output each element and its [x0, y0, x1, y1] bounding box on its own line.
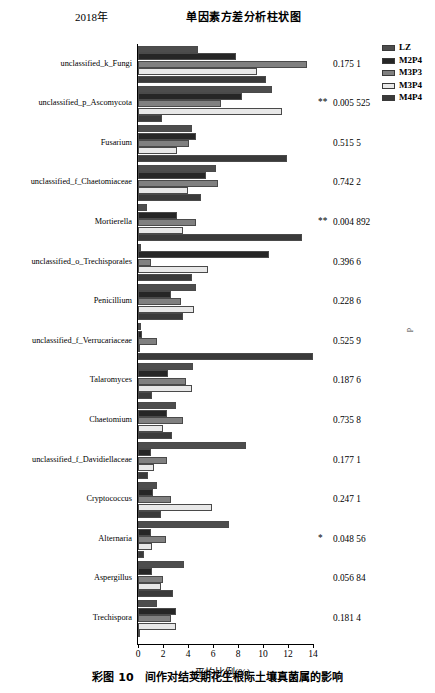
- bar-m2p4: [138, 291, 171, 298]
- bar-m4p4: [138, 590, 173, 597]
- significance-star: **: [318, 216, 327, 226]
- bar-group: unclassified_o_Trechisporales0.396 6: [0, 244, 435, 281]
- bar-group: unclassified_k_Fungi0.175 1: [0, 46, 435, 83]
- bar-m3p4: [138, 623, 176, 630]
- bar-m4p4: [138, 194, 201, 201]
- bar-lz: [138, 482, 157, 489]
- x-tick-label: 10: [253, 649, 273, 659]
- x-tick: [313, 644, 314, 648]
- p-value: 0.175 1: [333, 59, 361, 69]
- bar-m4p4: [138, 76, 266, 83]
- x-tick: [238, 644, 239, 648]
- category-label: Trechispora: [93, 613, 132, 622]
- bar-m3p3: [138, 140, 189, 147]
- x-tick: [188, 644, 189, 648]
- bar-group: Aspergillus0.056 84: [0, 561, 435, 598]
- bar-m3p4: [138, 504, 212, 511]
- bar-m2p4: [138, 529, 151, 536]
- bar-lz: [138, 244, 141, 251]
- category-label: Alternaria: [98, 534, 132, 543]
- legend: LZM2P4M3P3M3P4M4P4: [382, 42, 435, 105]
- bar-m4p4: [138, 551, 144, 558]
- bar-m3p4: [138, 68, 257, 75]
- legend-swatch-icon: [382, 58, 395, 64]
- x-tick: [163, 644, 164, 648]
- bar-lz: [138, 561, 184, 568]
- figure-page: 2018年 单因素方差分析柱状图 unclassified_k_Fungi0.1…: [0, 0, 435, 693]
- significance-star: **: [318, 97, 327, 107]
- p-value: 0.515 5: [333, 138, 361, 148]
- p-value: 0.005 525: [333, 98, 370, 108]
- legend-swatch-icon: [382, 95, 395, 101]
- bar-m3p3: [138, 259, 151, 266]
- bar-m3p3: [138, 378, 186, 385]
- bar-m3p4: [138, 147, 177, 154]
- p-value: 0.004 892: [333, 217, 370, 227]
- category-label: Chaetomium: [89, 415, 132, 424]
- bar-m4p4: [138, 155, 287, 162]
- bar-lz: [138, 323, 141, 330]
- category-label: Talaromyces: [90, 375, 132, 384]
- bar-lz: [138, 125, 192, 132]
- category-label: unclassified_f_Davidiellaceae: [32, 455, 132, 464]
- legend-swatch-icon: [382, 70, 395, 76]
- year-label: 2018年: [75, 8, 108, 24]
- bar-m3p3: [138, 219, 196, 226]
- legend-item-m3p3: M3P3: [382, 67, 435, 80]
- bar-m3p3: [138, 576, 163, 583]
- bar-group: Fusarium0.515 5: [0, 125, 435, 162]
- bar-lz: [138, 204, 147, 211]
- bar-lz: [138, 521, 229, 528]
- x-tick: [213, 644, 214, 648]
- bar-m3p3: [138, 615, 171, 622]
- bar-m3p3: [138, 536, 166, 543]
- x-tick: [263, 644, 264, 648]
- bar-m2p4: [138, 331, 142, 338]
- bar-m2p4: [138, 251, 269, 258]
- x-tick-label: 4: [178, 649, 198, 659]
- significance-star: *: [318, 533, 323, 543]
- category-label: unclassified_f_Verrucariaceae: [32, 336, 132, 345]
- legend-label: M3P4: [399, 80, 422, 90]
- bar-m2p4: [138, 133, 196, 140]
- bar-group: Penicillium0.228 6: [0, 284, 435, 321]
- category-label: unclassified_p_Ascomycota: [38, 98, 132, 107]
- bar-m2p4: [138, 53, 236, 60]
- chart-title: 单因素方差分析柱状图: [186, 8, 301, 24]
- bar-group: Alternaria0.048 56*: [0, 521, 435, 558]
- bar-group: unclassified_f_Davidiellaceae0.177 1: [0, 442, 435, 479]
- bar-m2p4: [138, 370, 168, 377]
- bar-m3p4: [138, 464, 154, 471]
- x-tick-label: 6: [203, 649, 223, 659]
- bar-m4p4: [138, 313, 183, 320]
- figure-caption: 彩图 10 间作对结荚期花生根际土壤真菌属的影响: [0, 668, 435, 684]
- bar-group: Cryptococcus0.247 1: [0, 482, 435, 519]
- bar-m3p4: [138, 385, 192, 392]
- bar-m3p3: [138, 61, 307, 68]
- bar-m2p4: [138, 93, 242, 100]
- bar-m2p4: [138, 410, 167, 417]
- legend-label: M3P3: [399, 67, 422, 77]
- bar-m4p4: [138, 432, 172, 439]
- x-tick-label: 12: [278, 649, 298, 659]
- category-label: Penicillium: [94, 296, 132, 305]
- bar-m4p4: [138, 392, 152, 399]
- p-value: 0.187 6: [333, 375, 361, 385]
- bar-m3p4: [138, 583, 161, 590]
- bar-m3p4: [138, 227, 183, 234]
- bar-m2p4: [138, 449, 151, 456]
- category-label: unclassified_k_Fungi: [61, 59, 132, 68]
- bar-group: Chaetomium0.735 8: [0, 402, 435, 439]
- bar-m3p3: [138, 100, 221, 107]
- bar-m3p4: [138, 266, 208, 273]
- x-tick-label: 14: [303, 649, 323, 659]
- figure-header: 2018年 单因素方差分析柱状图: [0, 8, 435, 32]
- legend-item-m3p4: M3P4: [382, 80, 435, 93]
- p-value: 0.056 84: [333, 573, 366, 583]
- x-tick-label: 0: [128, 649, 148, 659]
- legend-label: M4P4: [399, 92, 422, 102]
- bar-lz: [138, 363, 193, 370]
- legend-item-m2p4: M2P4: [382, 55, 435, 68]
- legend-swatch-icon: [382, 45, 395, 51]
- bar-m3p3: [138, 298, 181, 305]
